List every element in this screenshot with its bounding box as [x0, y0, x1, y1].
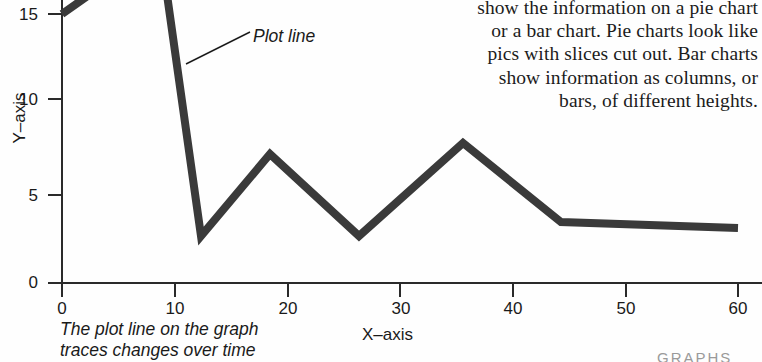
- x-axis-title: X–axis: [362, 325, 413, 345]
- y-axis-ticks: [48, 14, 62, 283]
- y-tick-label: 15: [4, 5, 38, 25]
- annotation-leader-line: [186, 32, 250, 64]
- plot-line-annotation-label: Plot line: [253, 26, 315, 47]
- y-tick-label: 0: [4, 273, 38, 293]
- x-tick-label: 40: [493, 299, 533, 319]
- caption-line: The plot line on the graph: [60, 319, 258, 340]
- x-tick-label: 10: [155, 299, 195, 319]
- caption-line: traces changes over time: [60, 340, 258, 361]
- x-tick-label: 20: [268, 299, 308, 319]
- x-tick-label: 60: [718, 299, 758, 319]
- x-axis-ticks: [62, 283, 738, 297]
- scanned-page: show the information on a pie chart or a…: [0, 0, 762, 362]
- plot-line-series: [62, 0, 738, 236]
- x-tick-label: 50: [606, 299, 646, 319]
- y-axis-title: Y–axis: [10, 81, 30, 155]
- x-tick-label: 0: [42, 299, 82, 319]
- x-tick-label: 30: [381, 299, 421, 319]
- running-head: GRAPHS: [657, 349, 732, 362]
- y-tick-label: 5: [4, 186, 38, 206]
- figure-caption: The plot line on the graph traces change…: [60, 319, 258, 361]
